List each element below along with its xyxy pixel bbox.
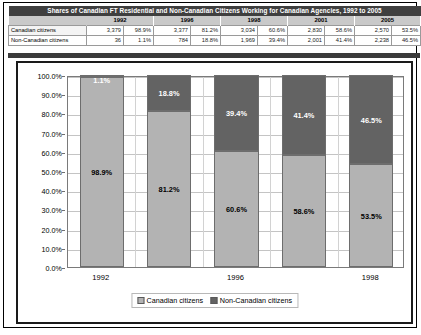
cell-noncanadian-1998-share: 39.4%	[258, 36, 288, 46]
y-axis-tick-label: 30.0%	[42, 206, 62, 215]
bar-group-1992[interactable]: 98.9%1.1%	[80, 77, 124, 267]
bar-segment-2005-non-canadian[interactable]: 46.5%	[349, 75, 393, 164]
column-header-1996: 1996	[154, 16, 221, 26]
chart-legend: Canadian citizens Non-Canadian citizens	[131, 293, 298, 308]
x-axis-tick-label: 1996	[227, 273, 244, 282]
bar-group-2001[interactable]: 58.6%41.4%	[282, 77, 326, 267]
legend-item-non-canadian[interactable]: Non-Canadian citizens	[210, 296, 292, 305]
legend-label-canadian: Canadian citizens	[146, 296, 203, 305]
category-gridline	[135, 77, 136, 267]
y-axis-tick-label: 10.0%	[42, 244, 62, 253]
cell-canadian-1998-share: 60.6%	[258, 26, 288, 36]
category-gridline	[203, 77, 204, 267]
y-axis-tick-mark	[62, 268, 65, 269]
y-axis-tick-label: 80.0%	[42, 110, 62, 119]
x-axis: 199219961998	[67, 271, 404, 285]
column-header-1998: 1998	[221, 16, 288, 26]
y-axis-tick-mark	[62, 230, 65, 231]
x-axis-tick-label: 1998	[362, 273, 379, 282]
bar-value-label: 53.5%	[350, 212, 392, 221]
y-axis-tick-label: 20.0%	[42, 225, 62, 234]
cell-noncanadian-2001-count: 2,001	[288, 36, 325, 46]
plot-area: 98.9%1.1%81.2%18.8%60.6%39.4%58.6%41.4%5…	[67, 76, 404, 268]
y-axis-tick-mark	[62, 172, 65, 173]
cell-noncanadian-2005-count: 2,238	[355, 36, 392, 46]
bar-segment-1996-canadian[interactable]: 81.2%	[147, 111, 191, 267]
cell-canadian-1996-share: 81.2%	[191, 26, 221, 36]
header-spacer	[9, 16, 87, 26]
column-header-2005: 2005	[355, 16, 421, 26]
chart-panel: 0.0%10.0%20.0%30.0%40.0%50.0%60.0%70.0%8…	[16, 61, 413, 324]
cell-canadian-1996-count: 3,377	[154, 26, 191, 36]
data-table: Shares of Canadian FT Residential and No…	[8, 6, 421, 46]
cell-canadian-2001-share: 58.6%	[325, 26, 355, 36]
cell-noncanadian-1998-count: 1,969	[221, 36, 258, 46]
y-axis-tick-mark	[62, 76, 65, 77]
cell-canadian-1992-share: 98.9%	[124, 26, 154, 36]
table-row: Non-Canadian citizens 36 1.1% 784 18.8% …	[9, 36, 421, 46]
data-table-container: Shares of Canadian FT Residential and No…	[8, 6, 420, 53]
bar-segment-1996-non-canadian[interactable]: 18.8%	[147, 75, 191, 111]
cell-noncanadian-1992-count: 36	[87, 36, 124, 46]
bar-value-label: 41.4%	[283, 111, 325, 120]
cell-canadian-1992-count: 3,379	[87, 26, 124, 36]
x-axis-tick-label: 1992	[92, 273, 109, 282]
cell-canadian-2001-count: 2,830	[288, 26, 325, 36]
cell-noncanadian-2005-share: 46.5%	[392, 36, 421, 46]
cell-noncanadian-1996-share: 18.8%	[191, 36, 221, 46]
bar-value-label: 18.8%	[148, 89, 190, 98]
legend-item-canadian[interactable]: Canadian citizens	[137, 296, 203, 305]
legend-swatch-icon	[210, 297, 217, 304]
y-axis-tick-mark	[62, 210, 65, 211]
y-axis-tick-mark	[62, 249, 65, 250]
bar-value-label: 1.1%	[81, 76, 123, 85]
table-row: Canadian citizens 3,379 98.9% 3,377 81.2…	[9, 26, 421, 36]
y-axis-tick-mark	[62, 153, 65, 154]
bar-value-label: 39.4%	[215, 109, 257, 118]
y-axis-tick-label: 70.0%	[42, 129, 62, 138]
bar-segment-2005-canadian[interactable]: 53.5%	[349, 164, 393, 267]
y-axis-tick-mark	[62, 114, 65, 115]
legend-label-non-canadian: Non-Canadian citizens	[220, 296, 292, 305]
y-axis-tick-label: 50.0%	[42, 168, 62, 177]
bar-value-label: 46.5%	[350, 116, 392, 125]
bar-segment-2001-non-canadian[interactable]: 41.4%	[282, 75, 326, 154]
category-gridline	[338, 77, 339, 267]
y-axis-tick-label: 90.0%	[42, 91, 62, 100]
table-title: Shares of Canadian FT Residential and No…	[9, 6, 421, 16]
y-axis-tick-label: 0.0%	[46, 264, 62, 273]
bar-value-label: 60.6%	[215, 205, 257, 214]
bar-group-2005[interactable]: 53.5%46.5%	[349, 77, 393, 267]
y-axis: 0.0%10.0%20.0%30.0%40.0%50.0%60.0%70.0%8…	[20, 76, 65, 268]
cell-canadian-1998-count: 3,034	[221, 26, 258, 36]
y-axis-tick-label: 60.0%	[42, 148, 62, 157]
bar-segment-1992-canadian[interactable]: 98.9%	[80, 77, 124, 267]
bar-segment-1998-non-canadian[interactable]: 39.4%	[214, 75, 258, 151]
y-axis-tick-label: 100.0%	[38, 72, 62, 81]
bar-value-label: 81.2%	[148, 185, 190, 194]
table-title-row: Shares of Canadian FT Residential and No…	[9, 6, 421, 16]
y-axis-tick-mark	[62, 134, 65, 135]
screenshot-root: Shares of Canadian FT Residential and No…	[0, 0, 421, 335]
bar-group-1996[interactable]: 81.2%18.8%	[147, 77, 191, 267]
row-label-non-canadian: Non-Canadian citizens	[9, 36, 87, 46]
cell-noncanadian-1992-share: 1.1%	[124, 36, 154, 46]
column-header-2001: 2001	[288, 16, 355, 26]
bar-segment-2001-canadian[interactable]: 58.6%	[282, 155, 326, 268]
table-footer-band	[8, 53, 420, 58]
bar-group-1998[interactable]: 60.6%39.4%	[214, 77, 258, 267]
y-axis-tick-mark	[62, 191, 65, 192]
y-axis-tick-label: 40.0%	[42, 187, 62, 196]
bar-segment-1992-non-canadian[interactable]: 1.1%	[80, 75, 124, 77]
cell-canadian-2005-share: 53.5%	[392, 26, 421, 36]
bar-segment-1998-canadian[interactable]: 60.6%	[214, 151, 258, 267]
table-year-header-row: 1992 1996 1998 2001 2005	[9, 16, 421, 26]
row-label-canadian: Canadian citizens	[9, 26, 87, 36]
cell-noncanadian-1996-count: 784	[154, 36, 191, 46]
bar-value-label: 58.6%	[283, 207, 325, 216]
cell-canadian-2005-count: 2,570	[355, 26, 392, 36]
column-header-1992: 1992	[87, 16, 154, 26]
legend-swatch-icon	[137, 297, 144, 304]
slide-frame: Shares of Canadian FT Residential and No…	[3, 2, 417, 328]
category-gridline	[270, 77, 271, 267]
